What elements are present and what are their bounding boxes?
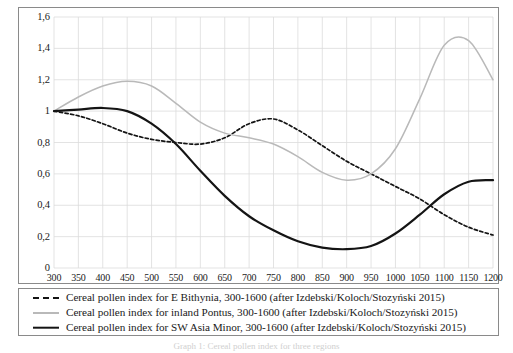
legend-item-label: Cereal pollen index for inland Pontus, 3… <box>66 306 458 319</box>
dashed-line-icon <box>33 293 59 303</box>
y-axis-tick-label: 1,6 <box>24 12 50 23</box>
y-axis-tick-label: 1 <box>24 106 50 117</box>
pollen-index-figure: 00,20,40,60,811,21,41,6 3003504004505005… <box>0 0 513 353</box>
y-axis-tick-label: 0,6 <box>24 169 50 180</box>
y-axis-tick-label: 0,4 <box>24 200 50 211</box>
legend-item-label: Cereal pollen index for E Bithynia, 300-… <box>66 291 445 304</box>
legend: Cereal pollen index for E Bithynia, 300-… <box>18 288 499 336</box>
legend-item-label: Cereal pollen index for SW Asia Minor, 3… <box>66 321 466 334</box>
x-axis-tick-label: 1200 <box>478 273 508 283</box>
y-axis-tick-label: 0,8 <box>24 138 50 149</box>
chart-canvas <box>18 7 499 284</box>
plot-area <box>18 7 499 284</box>
gray-line-icon <box>33 308 59 318</box>
y-axis-tick-label: 1,2 <box>24 75 50 86</box>
legend-item-bithynia: Cereal pollen index for E Bithynia, 300-… <box>33 290 445 305</box>
y-axis-tick-label: 0,2 <box>24 232 50 243</box>
solid-line-icon <box>33 323 59 333</box>
y-axis-tick-label: 1,4 <box>24 43 50 54</box>
figure-caption: Graph 1: Cereal pollen index for three r… <box>0 341 513 352</box>
legend-item-inland-pontus: Cereal pollen index for inland Pontus, 3… <box>33 305 458 320</box>
legend-item-sw-asia-minor: Cereal pollen index for SW Asia Minor, 3… <box>33 320 466 335</box>
